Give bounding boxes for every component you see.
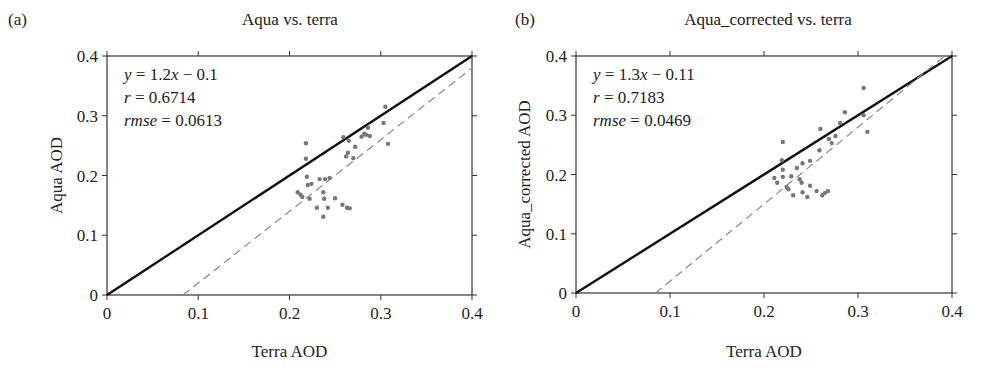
x-tick-label: 0.2 bbox=[279, 304, 300, 323]
data-point bbox=[304, 157, 308, 161]
data-point bbox=[775, 181, 779, 185]
data-point bbox=[799, 181, 803, 185]
x-axis-title: Terra AOD bbox=[252, 342, 328, 361]
data-point bbox=[305, 174, 309, 178]
regression-line bbox=[656, 56, 945, 293]
data-point bbox=[843, 110, 847, 114]
data-point bbox=[826, 189, 830, 193]
data-point bbox=[353, 145, 357, 149]
data-point bbox=[351, 156, 355, 160]
data-point bbox=[772, 176, 776, 180]
x-tick-label: 0.1 bbox=[659, 302, 680, 321]
data-point bbox=[829, 141, 833, 145]
data-point bbox=[341, 135, 345, 139]
data-point bbox=[833, 134, 837, 138]
correlation-coefficient: r = 0.6714 bbox=[124, 88, 196, 107]
scatter-plot-b: (b)Aqua_corrected vs. terra00.10.20.30.4… bbox=[500, 0, 1003, 376]
data-point bbox=[383, 105, 387, 109]
data-point bbox=[780, 158, 784, 162]
x-tick-label: 0 bbox=[103, 304, 112, 323]
data-point bbox=[321, 190, 325, 194]
data-point bbox=[800, 161, 804, 165]
chart-title: Aqua_corrected vs. terra bbox=[684, 10, 852, 29]
data-point bbox=[789, 174, 793, 178]
x-tick-label: 0 bbox=[572, 302, 581, 321]
data-point bbox=[304, 141, 308, 145]
data-point bbox=[781, 175, 785, 179]
data-point bbox=[309, 182, 313, 186]
data-point bbox=[808, 184, 812, 188]
data-point bbox=[323, 177, 327, 181]
data-point bbox=[298, 192, 302, 196]
data-point bbox=[818, 127, 822, 131]
data-point bbox=[322, 197, 326, 201]
data-point bbox=[838, 121, 842, 125]
x-tick-label: 0.2 bbox=[753, 302, 774, 321]
data-point bbox=[340, 203, 344, 207]
panel-label: (b) bbox=[515, 10, 535, 29]
data-point bbox=[347, 139, 351, 143]
x-tick-label: 0.3 bbox=[370, 304, 391, 323]
x-tick-label: 0.1 bbox=[188, 304, 209, 323]
data-point bbox=[366, 126, 370, 130]
data-point bbox=[368, 134, 372, 138]
data-point bbox=[386, 142, 390, 146]
x-axis-title: Terra AOD bbox=[726, 342, 802, 361]
chart-panel-a: (a)Aqua vs. terra00.10.20.30.400.10.20.3… bbox=[0, 0, 500, 376]
chart-panel-b: (b)Aqua_corrected vs. terra00.10.20.30.4… bbox=[500, 0, 1003, 376]
data-point bbox=[786, 187, 790, 191]
data-point bbox=[861, 113, 865, 117]
data-point bbox=[814, 189, 818, 193]
data-point bbox=[321, 215, 325, 219]
y-tick-label: 0.4 bbox=[77, 47, 99, 66]
x-tick-label: 0.4 bbox=[461, 304, 483, 323]
data-point bbox=[327, 176, 331, 180]
data-point bbox=[381, 121, 385, 125]
y-axis-title: Aqua_corrected AOD bbox=[515, 100, 534, 249]
y-tick-label: 0.2 bbox=[546, 166, 567, 185]
y-tick-label: 0 bbox=[90, 286, 99, 305]
data-point bbox=[817, 148, 821, 152]
panel-label: (a) bbox=[8, 10, 27, 29]
y-tick-label: 0.1 bbox=[77, 226, 98, 245]
y-tick-label: 0.3 bbox=[77, 107, 98, 126]
data-point bbox=[791, 193, 795, 197]
rmse-value: rmse = 0.0469 bbox=[593, 111, 691, 130]
data-point bbox=[307, 197, 311, 201]
y-axis-title: Aqua AOD bbox=[47, 137, 66, 214]
data-point bbox=[781, 168, 785, 172]
data-point bbox=[362, 131, 366, 135]
y-tick-label: 0 bbox=[559, 284, 568, 303]
data-point bbox=[795, 166, 799, 170]
data-point bbox=[800, 190, 804, 194]
correlation-coefficient: r = 0.7183 bbox=[593, 88, 664, 107]
y-tick-label: 0.1 bbox=[546, 225, 567, 244]
data-point bbox=[827, 137, 831, 141]
data-point bbox=[348, 206, 352, 210]
regression-equation: y = 1.3x − 0.11 bbox=[591, 65, 695, 84]
data-point bbox=[805, 195, 809, 199]
data-point bbox=[865, 130, 869, 134]
data-point bbox=[317, 177, 321, 181]
y-tick-label: 0.3 bbox=[546, 106, 567, 125]
rmse-value: rmse = 0.0613 bbox=[124, 111, 222, 130]
data-point bbox=[333, 196, 337, 200]
data-point bbox=[326, 206, 330, 210]
y-tick-label: 0.4 bbox=[546, 47, 568, 66]
regression-equation: y = 1.2x − 0.1 bbox=[122, 65, 218, 84]
data-point bbox=[861, 86, 865, 90]
data-point bbox=[781, 140, 785, 144]
data-point bbox=[808, 159, 812, 163]
chart-title: Aqua vs. terra bbox=[242, 10, 338, 29]
data-point bbox=[344, 154, 348, 158]
scatter-plot-a: (a)Aqua vs. terra00.10.20.30.400.10.20.3… bbox=[0, 0, 500, 376]
y-tick-label: 0.2 bbox=[77, 167, 98, 186]
data-point bbox=[315, 206, 319, 210]
x-tick-label: 0.3 bbox=[847, 302, 868, 321]
x-tick-label: 0.4 bbox=[941, 302, 963, 321]
regression-line bbox=[183, 68, 472, 295]
